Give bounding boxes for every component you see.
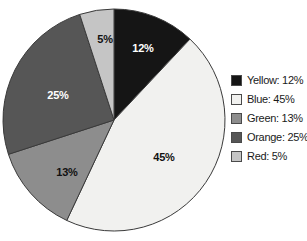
legend-swatch-blue (231, 94, 242, 105)
legend-swatch-green (231, 113, 242, 124)
legend-label-green: Green: 13% (247, 113, 303, 124)
legend-item-orange[interactable]: Orange: 25% (231, 128, 307, 147)
chart-legend: Yellow: 12%Blue: 45%Green: 13%Orange: 25… (231, 71, 307, 166)
legend-label-red: Red: 5% (247, 151, 287, 162)
legend-label-yellow: Yellow: 12% (247, 75, 303, 86)
legend-swatch-red (231, 151, 242, 162)
legend-item-blue[interactable]: Blue: 45% (231, 90, 307, 109)
pie-slice-label-orange: 25% (47, 89, 69, 101)
pie-slice-label-yellow: 12% (132, 42, 154, 54)
legend-item-green[interactable]: Green: 13% (231, 109, 307, 128)
legend-label-orange: Orange: 25% (247, 132, 307, 143)
legend-item-yellow[interactable]: Yellow: 12% (231, 71, 307, 90)
legend-swatch-orange (231, 132, 242, 143)
legend-item-red[interactable]: Red: 5% (231, 147, 307, 166)
legend-swatch-yellow (231, 75, 242, 86)
pie-slice-label-blue: 45% (153, 151, 175, 163)
pie-chart-figure: 12%45%13%25%5% Yellow: 12%Blue: 45%Green… (0, 0, 307, 241)
pie-slice-group (3, 9, 225, 231)
legend-label-blue: Blue: 45% (247, 94, 294, 105)
pie-slice-label-green: 13% (56, 166, 78, 178)
pie-slice-label-red: 5% (97, 33, 113, 45)
